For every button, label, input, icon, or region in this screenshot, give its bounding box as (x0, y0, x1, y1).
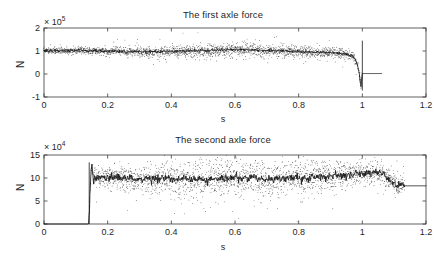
svg-text:10: 10 (30, 173, 40, 183)
chart-panel-second-axle-force: The second axle force × 104 N 00.20.40.6… (0, 131, 446, 263)
svg-text:0.4: 0.4 (165, 100, 178, 110)
svg-text:0.4: 0.4 (165, 227, 178, 237)
svg-text:1: 1 (35, 46, 40, 56)
x-axis-label-first: s (0, 114, 446, 124)
svg-text:0: 0 (41, 100, 46, 110)
svg-text:0: 0 (41, 227, 46, 237)
svg-text:0: 0 (35, 69, 40, 79)
svg-text:15: 15 (30, 150, 40, 160)
svg-text:0.6: 0.6 (229, 100, 242, 110)
svg-text:0.6: 0.6 (229, 227, 242, 237)
svg-text:0: 0 (35, 219, 40, 229)
plot-area-first-axle-force: 00.20.40.60.811.2-1012 (0, 0, 446, 131)
svg-text:1: 1 (360, 100, 365, 110)
svg-text:2: 2 (35, 23, 40, 33)
svg-text:-1: -1 (32, 92, 40, 102)
chart-panel-first-axle-force: The first axle force × 105 N 00.20.40.60… (0, 0, 446, 131)
svg-text:1.2: 1.2 (420, 227, 433, 237)
svg-text:0.8: 0.8 (292, 100, 305, 110)
svg-text:0.2: 0.2 (101, 227, 114, 237)
svg-text:1: 1 (360, 227, 365, 237)
svg-text:5: 5 (35, 196, 40, 206)
x-axis-label-second: s (0, 242, 446, 252)
svg-text:0.2: 0.2 (101, 100, 114, 110)
svg-text:1.2: 1.2 (420, 100, 433, 110)
svg-text:0.8: 0.8 (292, 227, 305, 237)
figure-canvas: The first axle force × 105 N 00.20.40.60… (0, 0, 446, 263)
